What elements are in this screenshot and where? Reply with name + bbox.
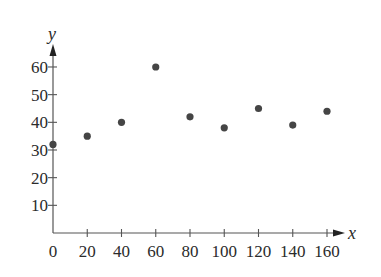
data-point [186, 113, 193, 120]
axes [50, 44, 346, 237]
data-point [118, 119, 125, 126]
y-axis-arrow-icon [50, 44, 57, 56]
y-tick-label: 40 [31, 113, 48, 132]
y-tick-label: 60 [31, 58, 48, 77]
y-tick-label: 50 [31, 86, 48, 105]
x-axis-ticks: 020406080100120140160 [49, 229, 340, 261]
x-tick-label: 100 [212, 242, 238, 261]
data-point [323, 108, 330, 115]
x-tick-label: 80 [182, 242, 199, 261]
x-axis-arrow-icon [333, 230, 345, 237]
x-tick-label: 0 [49, 242, 58, 261]
data-point [255, 105, 262, 112]
scatter-chart: 020406080100120140160 102030405060 x y [0, 0, 381, 277]
y-tick-label: 30 [31, 141, 48, 160]
x-tick-label: 20 [79, 242, 96, 261]
y-tick-label: 10 [31, 196, 48, 215]
x-tick-label: 120 [246, 242, 272, 261]
data-point [152, 63, 159, 70]
x-tick-label: 140 [280, 242, 306, 261]
x-tick-label: 160 [314, 242, 340, 261]
data-point [289, 121, 296, 128]
data-point [221, 124, 228, 131]
data-point [49, 141, 56, 148]
y-axis-label: y [46, 24, 56, 44]
data-point [84, 133, 91, 140]
x-axis-label: x [347, 223, 356, 243]
x-tick-label: 40 [113, 242, 130, 261]
y-tick-label: 20 [31, 169, 48, 188]
x-tick-label: 60 [147, 242, 164, 261]
data-points [49, 63, 330, 148]
